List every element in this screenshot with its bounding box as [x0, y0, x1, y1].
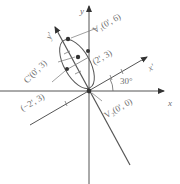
x-axis-label: x	[167, 98, 172, 108]
angle-arc	[110, 79, 113, 91]
y-axis-label: y	[79, 6, 84, 16]
right-point-label: (2', 3)	[90, 47, 113, 66]
v2-label: V₂(0', 0)	[102, 96, 134, 120]
y-prime-label: y'	[43, 30, 56, 42]
point-v2	[87, 89, 92, 94]
point-right	[86, 49, 90, 53]
angle-label: 30°	[120, 76, 133, 86]
y-prime-axis	[55, 27, 130, 165]
point-v1	[66, 37, 70, 41]
point-center	[76, 55, 80, 59]
point-left	[65, 67, 69, 71]
left-point-label: (−2', 3)	[19, 91, 47, 113]
x-prime-label: x'	[145, 61, 157, 74]
diagram-canvas: y x y' x' 30° V₁(0', 6) (2', 3) C'(0', 3…	[0, 0, 180, 184]
v1-label: V₁(0', 6)	[91, 11, 123, 35]
center-label: C'(0', 3)	[22, 58, 49, 85]
